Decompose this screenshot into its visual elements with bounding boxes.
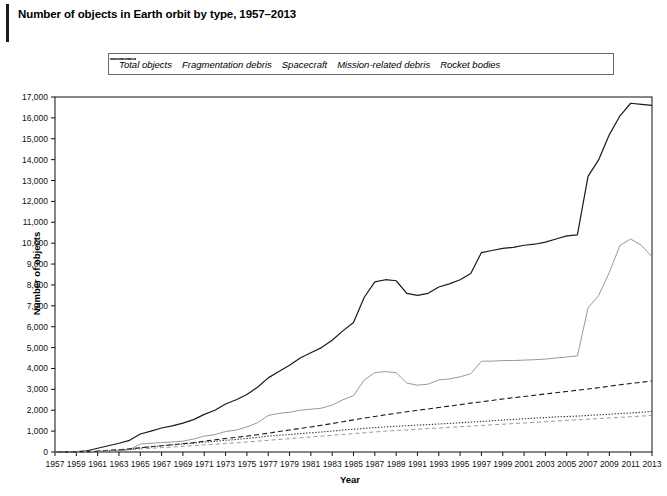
x-tick-label: 1995 [451,459,470,469]
y-tick-label: 13,000 [22,176,48,186]
x-tick-label: 1987 [365,459,384,469]
series-line-spacecraft [55,381,652,452]
y-tick-label: 12,000 [22,196,48,206]
x-tick-label: 2001 [515,459,534,469]
x-tick-label: 1997 [472,459,491,469]
y-tick-label: 6,000 [27,322,49,332]
y-tick-label: 5,000 [27,343,49,353]
y-tick-label: 1,000 [27,426,49,436]
y-tick-label: 7,000 [27,301,49,311]
x-tick-label: 1963 [110,459,129,469]
x-tick-label: 2009 [600,459,619,469]
series-line-total-objects [55,103,652,452]
y-tick-label: 15,000 [22,134,48,144]
x-tick-label: 1989 [387,459,406,469]
x-tick-label: 2011 [622,459,641,469]
y-tick-label: 11,000 [23,217,49,227]
y-tick-label: 8,000 [27,280,49,290]
x-tick-label: 1981 [301,459,320,469]
x-tick-label: 2005 [557,459,576,469]
y-tick-label: 14,000 [22,155,48,165]
x-tick-label: 1975 [237,459,256,469]
plot-area: 01,0002,0003,0004,0005,0006,0007,0008,00… [0,0,667,496]
x-tick-label: 1961 [88,459,107,469]
x-tick-label: 1979 [280,459,299,469]
x-tick-label: 2007 [579,459,598,469]
x-tick-label: 1967 [152,459,171,469]
y-tick-label: 2,000 [27,405,49,415]
plot-frame [55,97,652,452]
y-tick-label: 17,000 [22,92,48,102]
x-tick-label: 1999 [493,459,512,469]
x-tick-label: 1993 [429,459,448,469]
x-tick-label: 2003 [536,459,555,469]
y-tick-label: 10,000 [22,238,48,248]
x-tick-label: 2013 [643,459,662,469]
x-tick-label: 1983 [323,459,342,469]
chart-figure: Number of objects in Earth orbit by type… [0,0,667,496]
x-tick-label: 1971 [195,459,214,469]
y-tick-label: 16,000 [22,113,48,123]
x-tick-label: 1991 [408,459,427,469]
x-tick-label: 1973 [216,459,235,469]
y-tick-label: 4,000 [27,363,49,373]
y-tick-label: 3,000 [27,384,49,394]
x-tick-label: 1977 [259,459,278,469]
x-tick-label: 1959 [67,459,86,469]
x-tick-label: 1965 [131,459,150,469]
series-line-mission-related-debris [55,411,652,452]
x-tick-label: 1969 [173,459,192,469]
y-tick-label: 0 [43,447,48,457]
x-tick-label: 1985 [344,459,363,469]
x-tick-label: 1957 [46,459,65,469]
series-line-rocket-bodies [55,415,652,452]
y-tick-label: 9,000 [27,259,49,269]
